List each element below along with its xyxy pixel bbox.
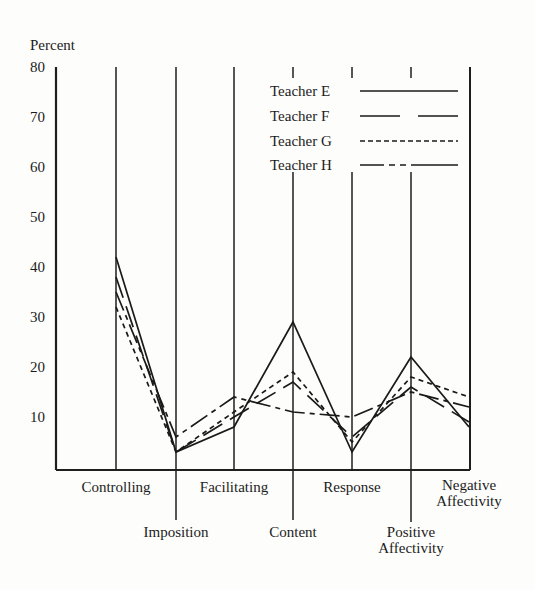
category-label-content: Content bbox=[269, 524, 317, 540]
category-label-response: Response bbox=[323, 479, 381, 495]
category-label-negative-affectivity-1: Negative bbox=[442, 477, 496, 493]
category-label-negative-affectivity-2: Affectivity bbox=[436, 493, 502, 509]
legend-label-teacher-f: Teacher F bbox=[270, 108, 329, 124]
tick-70: 70 bbox=[30, 109, 45, 125]
tick-50: 50 bbox=[30, 209, 45, 225]
category-label-positive-affectivity-2: Affectivity bbox=[378, 540, 444, 556]
legend-label-teacher-e: Teacher E bbox=[270, 83, 330, 99]
legend-label-teacher-h: Teacher H bbox=[270, 157, 332, 173]
tick-40: 40 bbox=[30, 259, 45, 275]
category-label-imposition: Imposition bbox=[143, 524, 209, 540]
tick-10: 10 bbox=[30, 409, 45, 425]
chart: Percent 80 70 60 50 40 30 20 10 Teacher … bbox=[0, 0, 535, 590]
category-label-facilitating: Facilitating bbox=[200, 479, 269, 495]
tick-60: 60 bbox=[30, 159, 45, 175]
tick-80: 80 bbox=[30, 59, 45, 75]
category-labels: Controlling Facilitating Response Imposi… bbox=[81, 477, 502, 556]
category-label-controlling: Controlling bbox=[81, 479, 151, 495]
y-axis-label: Percent bbox=[30, 37, 76, 53]
y-ticks: 80 70 60 50 40 30 20 10 bbox=[30, 59, 45, 425]
category-label-positive-affectivity-1: Positive bbox=[387, 524, 436, 540]
legend-label-teacher-g: Teacher G bbox=[270, 133, 332, 149]
tick-30: 30 bbox=[30, 309, 45, 325]
tick-20: 20 bbox=[30, 359, 45, 375]
